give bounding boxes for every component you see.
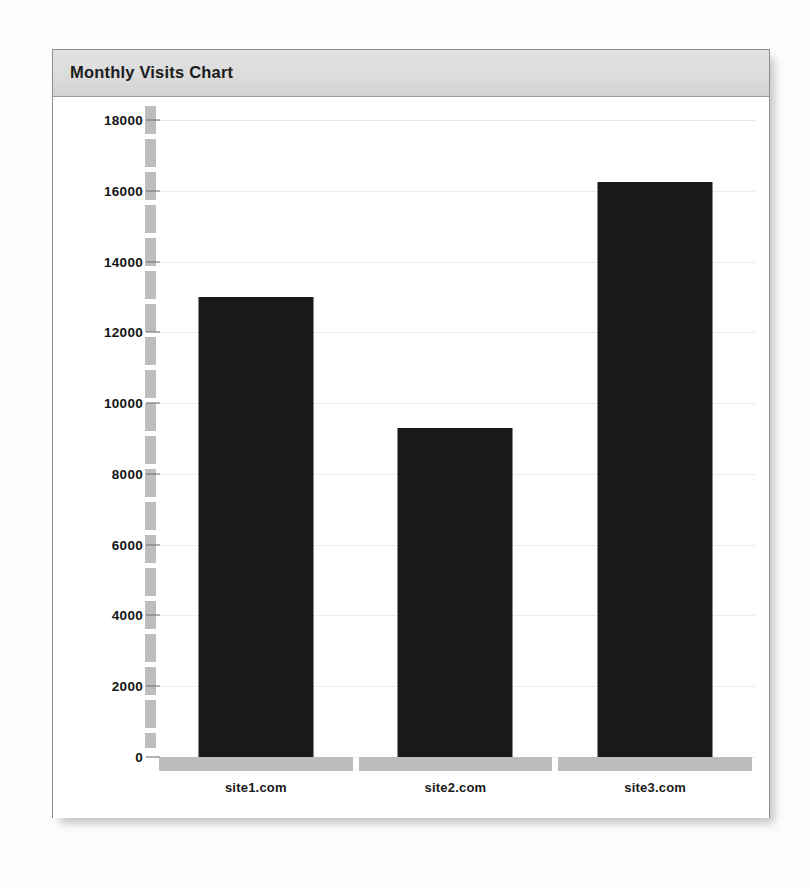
page-background: Monthly Visits Chart 0200040006000800010… bbox=[0, 0, 810, 888]
x-axis-segment bbox=[558, 757, 752, 771]
y-axis-tick-label: 8000 bbox=[112, 466, 143, 481]
y-axis-tick-label: 2000 bbox=[112, 679, 143, 694]
bar[interactable] bbox=[398, 428, 513, 757]
x-axis-segment bbox=[359, 757, 553, 771]
x-axis-tick-label: site1.com bbox=[156, 780, 356, 795]
y-axis-tick-label: 14000 bbox=[104, 254, 143, 269]
bars-container bbox=[156, 98, 755, 818]
y-axis-tick-labels: 0200040006000800010000120001400016000180… bbox=[53, 98, 143, 818]
panel-header: Monthly Visits Chart bbox=[53, 50, 769, 97]
y-axis-tick-label: 6000 bbox=[112, 537, 143, 552]
y-axis-tick-label: 16000 bbox=[104, 183, 143, 198]
y-axis-tick-label: 18000 bbox=[104, 113, 143, 128]
x-axis-segment bbox=[159, 757, 353, 771]
y-axis-tick-label: 12000 bbox=[104, 325, 143, 340]
bar[interactable] bbox=[598, 182, 713, 757]
x-axis-tick-labels: site1.comsite2.comsite3.com bbox=[156, 780, 755, 802]
y-axis-tick-label: 10000 bbox=[104, 396, 143, 411]
x-axis-tick-label: site2.com bbox=[356, 780, 556, 795]
bar-slot bbox=[356, 98, 556, 818]
x-axis-tick-label: site3.com bbox=[555, 780, 755, 795]
y-axis-tick-label: 0 bbox=[135, 750, 143, 765]
y-axis-band bbox=[145, 106, 156, 748]
bar-slot bbox=[156, 98, 356, 818]
page-title: Monthly Visits Chart bbox=[70, 63, 233, 82]
y-axis-tick-label: 4000 bbox=[112, 608, 143, 623]
plot-area: 0200040006000800010000120001400016000180… bbox=[53, 98, 769, 818]
bar-slot bbox=[555, 98, 755, 818]
bar[interactable] bbox=[198, 297, 313, 757]
chart-panel: Monthly Visits Chart 0200040006000800010… bbox=[52, 49, 770, 818]
